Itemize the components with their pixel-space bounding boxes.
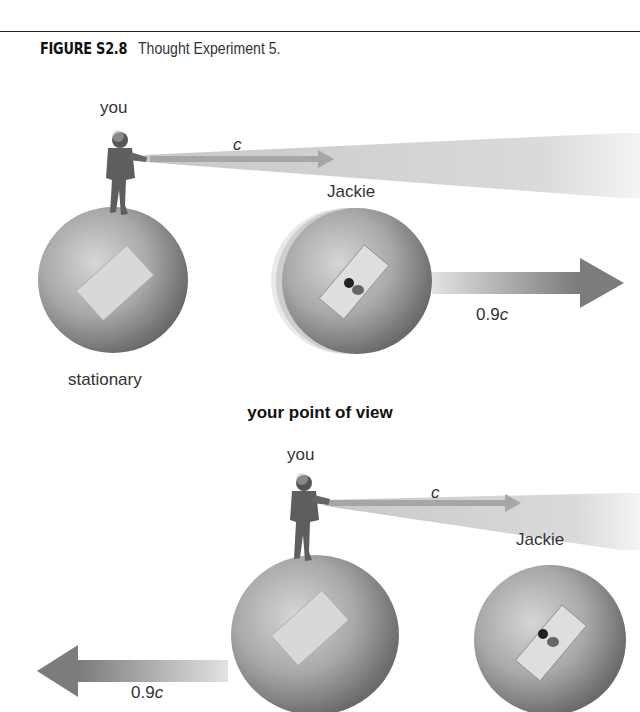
jackie-sphere-bottom	[474, 565, 626, 712]
velocity-unit-top: c	[500, 305, 509, 324]
light-speed-label-bottom: c	[431, 483, 440, 503]
light-speed-label-top: c	[233, 135, 242, 155]
astronaut-you-bottom	[290, 473, 330, 561]
figure-artwork	[0, 0, 640, 712]
stationary-label: stationary	[68, 370, 142, 390]
jackie-label-bottom: Jackie	[516, 530, 564, 550]
velocity-unit-bottom: c	[155, 683, 164, 702]
panel-heading: your point of view	[0, 403, 640, 423]
velocity-arrow-right	[432, 258, 624, 308]
velocity-value-bottom: 0.9	[131, 683, 155, 702]
velocity-label-top: 0.9c	[476, 305, 508, 325]
light-beam-top	[145, 133, 640, 198]
bottom-panel	[37, 473, 640, 712]
top-panel	[38, 130, 640, 354]
your-sphere-bottom	[231, 555, 399, 712]
your-sphere-top	[38, 207, 188, 353]
you-label-top: you	[100, 98, 127, 118]
jackie-sphere-top	[271, 208, 432, 354]
astronaut-you-top	[106, 130, 147, 215]
jackie-label-top: Jackie	[327, 182, 375, 202]
velocity-label-bottom: 0.9c	[131, 683, 163, 703]
velocity-value-top: 0.9	[476, 305, 500, 324]
you-label-bottom: you	[287, 445, 314, 465]
